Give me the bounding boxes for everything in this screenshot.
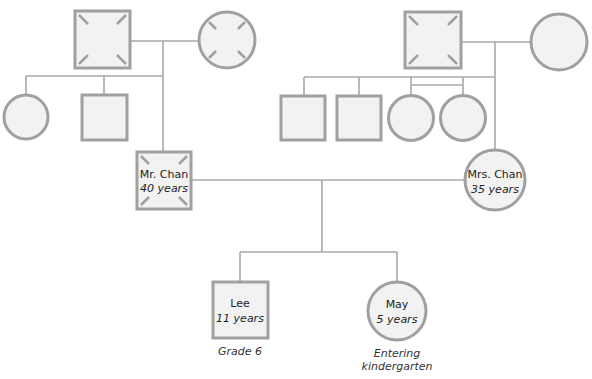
relationship-lines [26, 41, 530, 282]
father-name: Mr. Chan [140, 168, 188, 181]
maternal-grandfather [405, 12, 461, 68]
genogram-diagram: Mr. Chan 40 years Mrs. Chan 35 years Lee… [0, 0, 592, 379]
mother-name: Mrs. Chan [467, 168, 522, 181]
son-caption: Grade 6 [218, 345, 262, 358]
paternal-grandfather [75, 11, 130, 68]
paternal-uncle [82, 95, 127, 140]
clipped-header-text [0, 0, 592, 2]
maternal-aunt-twin-2 [441, 96, 486, 141]
paternal-grandmother [199, 12, 255, 68]
maternal-uncle-2 [337, 96, 381, 140]
father-age: 40 years [140, 182, 188, 195]
maternal-grandmother [531, 14, 587, 70]
maternal-aunt-twin-1 [389, 96, 434, 141]
paternal-aunt [4, 95, 48, 139]
daughter-name: May [386, 298, 409, 311]
daughter-may [368, 282, 426, 340]
daughter-age: 5 years [377, 313, 418, 326]
mother-age: 35 years [471, 183, 519, 196]
daughter-caption-line2: kindergarten [362, 360, 433, 373]
son-lee [213, 282, 268, 338]
son-age: 11 years [216, 312, 264, 325]
son-name: Lee [230, 297, 250, 310]
daughter-caption-line1: Entering [374, 347, 421, 360]
maternal-uncle-1 [281, 96, 325, 140]
